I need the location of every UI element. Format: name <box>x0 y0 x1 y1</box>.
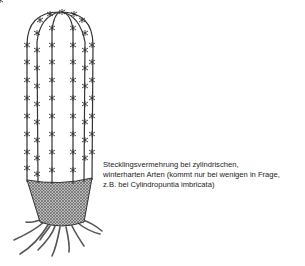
caption: Stecklingsvermehrung bei zylindrischen, … <box>103 160 303 190</box>
diagram-figure: Stecklingsvermehrung bei zylindrischen, … <box>0 0 305 266</box>
caption-line-3: z.B. bei Cylindropuntia imbricata) <box>103 180 303 190</box>
caption-line-1: Stecklingsvermehrung bei zylindrischen, <box>103 160 303 170</box>
soil-base <box>27 178 92 226</box>
caption-line-2: winterharten Arten (kommt nur bei wenige… <box>103 170 303 180</box>
cactus-illustration <box>0 0 305 266</box>
spines <box>0 0 95 177</box>
